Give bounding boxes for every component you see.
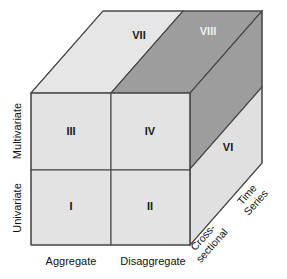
cell-label-vi: VI bbox=[223, 141, 233, 153]
cell-label-viii: VIII bbox=[200, 25, 217, 37]
cell-label-iii: III bbox=[66, 125, 75, 137]
cell-label-iv: IV bbox=[145, 125, 156, 137]
cell-label-i: I bbox=[69, 200, 72, 212]
cube-diagram: I II III IV VI VII VIII Aggregate Disagg… bbox=[0, 0, 287, 279]
cell-label-ii: II bbox=[147, 200, 153, 212]
axis-label-univariate: Univariate bbox=[11, 183, 23, 233]
cell-label-vii: VII bbox=[132, 29, 145, 41]
axis-label-multivariate: Multivariate bbox=[11, 103, 23, 159]
figure-root: I II III IV VI VII VIII Aggregate Disagg… bbox=[0, 0, 287, 279]
axis-label-aggregate: Aggregate bbox=[46, 255, 97, 267]
axis-label-disaggregate: Disaggregate bbox=[120, 255, 185, 267]
